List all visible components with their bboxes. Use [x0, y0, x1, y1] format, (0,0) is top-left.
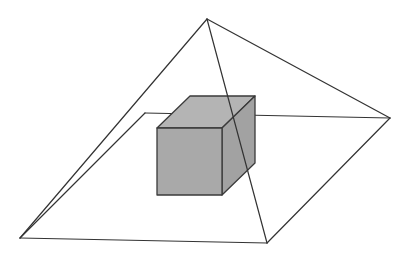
pyramid-cube-diagram	[0, 0, 412, 258]
pyramid-base-edge-left-front	[20, 238, 267, 243]
cube-front-face	[157, 128, 222, 195]
pyramid-base-edge-front-right	[267, 118, 390, 243]
diagram-canvas	[0, 0, 412, 258]
pyramid-base-edge-left-back	[20, 113, 145, 238]
